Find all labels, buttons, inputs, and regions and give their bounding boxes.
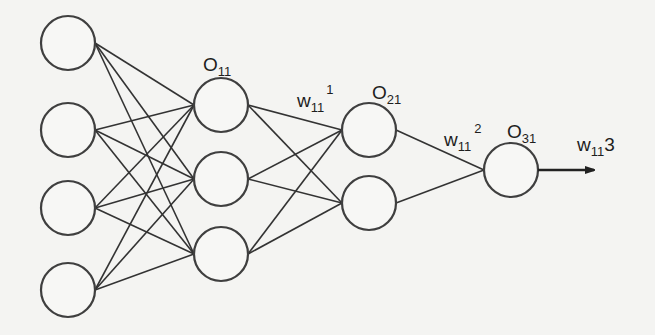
edge-hidden1-2-to-hidden2-1: [248, 130, 342, 179]
neuron-input-2: [41, 103, 95, 157]
edge-input-3-to-hidden1-3: [95, 208, 194, 254]
neuron-input-4: [41, 263, 95, 317]
neuron-input-1: [41, 16, 95, 70]
neuron-hidden1-1: [194, 78, 248, 132]
edge-input-4-to-hidden1-3: [95, 254, 194, 290]
neural-network-diagram: O11 w111 O21 w112 O31 w113: [0, 0, 655, 335]
edge-input-4-to-hidden1-1: [95, 105, 194, 290]
edge-hidden2-2-to-output-1: [396, 170, 484, 203]
label-weight-2: w112: [443, 121, 481, 154]
neuron-hidden2-2: [342, 176, 396, 230]
edge-input-1-to-hidden1-2: [95, 43, 194, 179]
neuron-output-1: [484, 143, 538, 197]
edge-hidden1-1-to-hidden2-1: [248, 105, 342, 130]
edge-input-2-to-hidden1-2: [95, 130, 194, 179]
edge-input-2-to-hidden1-1: [95, 105, 194, 130]
edge-hidden1-3-to-hidden2-1: [248, 130, 342, 254]
connection-edges: [95, 43, 484, 290]
neuron-hidden1-3: [194, 227, 248, 281]
neuron-hidden1-2: [194, 152, 248, 206]
edge-hidden1-3-to-hidden2-2: [248, 203, 342, 254]
label-o11: O11: [203, 54, 231, 79]
label-weight-1: w111: [296, 82, 334, 115]
neuron-hidden2-1: [342, 103, 396, 157]
label-weight-3: w113: [576, 134, 615, 159]
neuron-input-3: [41, 181, 95, 235]
neuron-nodes: [41, 16, 538, 317]
